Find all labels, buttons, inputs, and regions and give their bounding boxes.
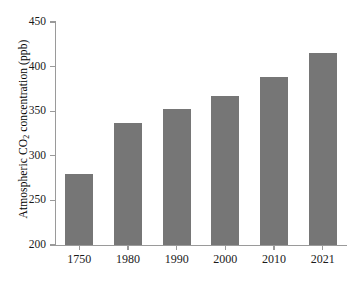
- x-axis-tick: [273, 246, 274, 250]
- x-axis-tick: [225, 246, 226, 250]
- x-axis-tick: [127, 246, 128, 250]
- bar: [211, 96, 239, 245]
- y-axis-tick: [50, 111, 55, 112]
- y-axis-tick: [50, 155, 55, 156]
- x-axis-tick-label: 2021: [293, 252, 353, 266]
- x-axis-tick: [79, 246, 80, 250]
- y-axis-tick-label: 250: [6, 194, 46, 206]
- y-axis-title-subscript: 2: [22, 135, 31, 139]
- bar: [114, 123, 142, 245]
- bar: [260, 77, 288, 245]
- x-axis-line: [55, 245, 347, 246]
- y-axis-line: [55, 21, 56, 246]
- y-axis-tick: [50, 244, 55, 245]
- y-axis-tick-label: 200: [6, 239, 46, 251]
- y-axis-title: Atmospheric CO2 concentration (ppb): [14, 4, 32, 254]
- y-axis-tick: [50, 200, 55, 201]
- y-axis-tick-label: 450: [6, 16, 46, 28]
- bar-chart: Atmospheric CO2 concentration (ppb) 2002…: [0, 0, 356, 282]
- y-axis-tick-label: 400: [6, 61, 46, 73]
- y-axis-tick-label: 300: [6, 150, 46, 162]
- y-axis-tick-label: 350: [6, 105, 46, 117]
- bar: [163, 109, 191, 245]
- x-axis-tick: [322, 246, 323, 250]
- x-axis-tick: [176, 246, 177, 250]
- bar: [65, 174, 93, 245]
- y-axis-tick: [50, 21, 55, 22]
- bar: [309, 53, 337, 245]
- y-axis-tick: [50, 66, 55, 67]
- y-axis-title-suffix: concentration (ppb): [17, 40, 29, 135]
